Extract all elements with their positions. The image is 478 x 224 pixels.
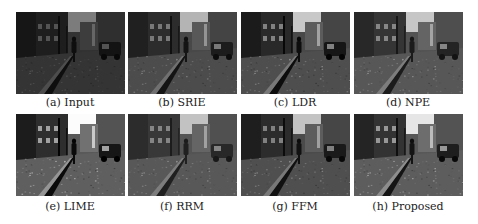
car-wheel [114,156,120,162]
cobblestone [253,69,255,70]
cobblestone [178,191,180,192]
pedestrian-legs [411,154,413,164]
cobblestone [199,61,201,62]
cobblestone [327,193,329,194]
cobblestone [211,59,213,60]
cobblestone [155,61,157,62]
cobblestone [340,178,342,179]
cobblestone [408,167,410,168]
cobblestone [242,187,244,188]
cobblestone [255,84,257,85]
cobblestone [219,165,221,166]
cobblestone [19,68,21,69]
pedestrian-legs [411,52,413,62]
cobblestone [159,56,161,57]
cobblestone [159,158,161,159]
cobblestone [115,76,117,77]
pedestrian-head [297,139,301,144]
left-building-shadow [16,12,36,60]
cobblestone [393,161,395,162]
cobblestone [210,193,212,194]
cobblestone [313,89,315,90]
cobblestone [305,163,307,164]
cobblestone [97,171,99,172]
cobblestone [129,85,131,86]
pedestrian-head [72,37,76,42]
cobblestone [404,195,406,196]
cobblestone [452,162,454,163]
cobblestone [186,178,188,179]
cobblestone [22,168,24,169]
cobblestone [451,92,453,93]
cobblestone [265,71,267,72]
cobblestone [207,60,209,61]
cobblestone [416,166,418,167]
cobblestone [332,165,334,166]
cobblestone [423,172,425,173]
cobblestone [188,69,190,70]
cobblestone [137,59,139,60]
cobblestone [121,181,123,182]
cobblestone [95,68,97,69]
cobblestone [95,170,97,171]
panel-image-input [16,12,125,94]
cobblestone [58,165,60,166]
cobblestone [384,69,386,70]
cobblestone [170,63,172,64]
cobblestone [22,66,24,67]
cobblestone [25,164,27,165]
cobblestone [268,173,270,174]
cobblestone [42,184,44,185]
window [263,126,267,131]
cobblestone [153,67,155,68]
cobblestone [129,172,131,173]
pedestrian-body [72,143,77,155]
lamp-post [396,16,398,60]
cobblestone [26,69,28,70]
lamp-post [170,118,172,162]
cobblestone [426,161,428,162]
cobblestone [250,91,252,92]
cobblestone [250,64,252,65]
cobblestone [47,158,49,159]
cobblestone [274,57,276,58]
cobblestone [314,70,316,71]
cobblestone [25,191,27,192]
cobblestone [349,183,350,184]
monument-column [430,24,433,46]
cobblestone [308,71,310,72]
cobblestone [25,62,27,63]
distant-building [305,124,323,152]
cobblestone [55,59,57,60]
cobblestone [177,175,179,176]
cobblestone [62,192,64,193]
cobblestone [40,173,42,174]
cobblestone [415,183,417,184]
cobblestone [143,172,145,173]
cobblestone [339,162,341,163]
cobblestone [368,186,370,187]
cobblestone [370,164,372,165]
cobblestone [25,166,27,167]
cobblestone [277,57,279,58]
cobblestone [145,185,147,186]
cobblestone [142,84,144,85]
cobblestone [208,66,210,67]
pedestrian-head [410,139,414,144]
cobblestone [113,92,115,93]
cobblestone [346,178,348,179]
cobblestone [324,161,326,162]
lamp-post [291,26,293,58]
cobblestone [99,161,101,162]
pedestrian-legs [73,154,75,164]
cobblestone [115,79,117,80]
cobblestone [379,84,381,85]
cobblestone [98,80,100,81]
cobblestone [433,68,435,69]
cobblestone [22,172,24,173]
cobblestone [113,69,115,70]
cobblestone [315,164,317,165]
cobblestone [89,172,91,173]
cobblestone [381,61,383,62]
cobblestone [84,161,86,162]
